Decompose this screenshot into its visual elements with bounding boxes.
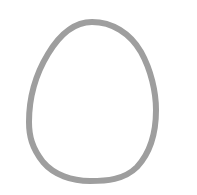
egg-outline-svg bbox=[0, 0, 197, 195]
drawing-canvas bbox=[0, 0, 197, 195]
